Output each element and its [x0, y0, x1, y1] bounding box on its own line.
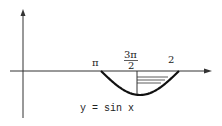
sine-diagram: π 3π 2 2 y = sin x	[0, 0, 222, 126]
label-3pi-denominator: 2	[128, 60, 134, 71]
label-pi: π	[92, 57, 99, 68]
shaded-region	[137, 77, 168, 83]
label-2pi: 2	[168, 54, 174, 65]
y-axis-arrow	[21, 9, 26, 16]
label-3pi-numerator: 3π	[124, 49, 137, 60]
x-axis-arrow	[204, 69, 212, 74]
caption: y = sin x	[80, 103, 134, 114]
